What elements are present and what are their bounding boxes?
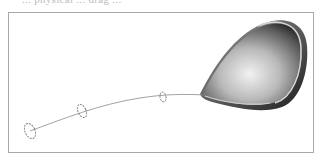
shell-body (200, 20, 307, 110)
figure-illustration (0, 0, 326, 159)
tether-line (30, 94, 205, 131)
ring-2-icon (75, 103, 88, 119)
ring-3-icon (159, 92, 167, 103)
